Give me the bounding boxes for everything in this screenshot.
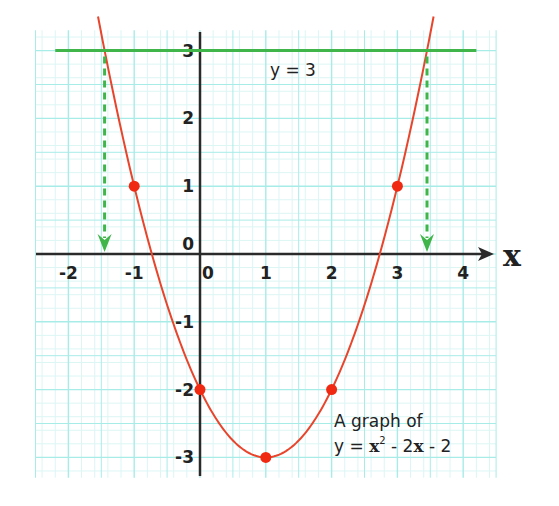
data-point: [129, 181, 140, 192]
eq-part: - 2: [424, 436, 452, 456]
x-tick-label: -2: [59, 263, 78, 283]
data-point: [392, 181, 403, 192]
x-tick-label: 2: [326, 263, 338, 283]
line-label-y-equals-3: y = 3: [270, 60, 316, 80]
x-tick-label: -1: [125, 263, 144, 283]
data-point: [260, 452, 271, 463]
y-tick-label: 2: [182, 108, 194, 128]
x-tick-label: 4: [457, 263, 469, 283]
data-point: [195, 384, 206, 395]
y-tick-label: -2: [175, 380, 194, 400]
y-tick-label: -3: [175, 447, 194, 467]
y-tick-label: 1: [182, 176, 194, 196]
graph-caption-equation: y = x2 - 2x - 2: [334, 435, 451, 456]
graph-caption-line1: A graph of: [334, 411, 424, 431]
data-point: [326, 384, 337, 395]
quadratic-graph: -2-1012343210-1-2-3 x y = 3 A graph of y…: [0, 0, 559, 506]
y-tick-label: -1: [175, 312, 194, 332]
x-tick-label: 3: [391, 263, 403, 283]
eq-part: - 2: [386, 436, 414, 456]
eq-part: y =: [334, 436, 369, 456]
y-tick-label: 0: [182, 234, 194, 254]
x-tick-label: 0: [202, 263, 214, 283]
x-tick-label: 1: [260, 263, 272, 283]
x-axis-label: x: [503, 238, 522, 273]
